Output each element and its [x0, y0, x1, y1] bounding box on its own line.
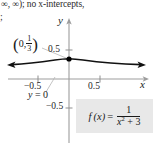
- figure-container: ∞, ∞); no x-intercepts, ; y x 0.5 −0.5 −…: [0, 0, 153, 143]
- formula-denominator-exponent: 2: [122, 115, 125, 122]
- formula-function-name: f: [89, 111, 92, 122]
- x-axis-label: x: [140, 78, 145, 90]
- y-intercept-fraction-denominator: 3: [26, 45, 32, 54]
- y-intercept-point: [66, 56, 71, 61]
- formula-expression: f(x) = 1 x2 + 3: [89, 105, 141, 127]
- formula-function-arg: (x): [94, 111, 106, 122]
- formula-equals: =: [107, 111, 113, 122]
- y-intercept-label: (0,13): [13, 35, 38, 54]
- y-intercept-fraction: 13: [26, 35, 32, 54]
- function-curve: [12, 59, 141, 65]
- y-intercept-x-value: 0,: [19, 38, 27, 49]
- formula-box: f(x) = 1 x2 + 3: [76, 99, 153, 133]
- formula-denominator: x2 + 3: [117, 117, 140, 127]
- asymptote-label-equation: = 0: [35, 89, 48, 100]
- asymptote-label: y = 0: [28, 89, 48, 100]
- formula-denominator-tail: + 3: [127, 116, 140, 127]
- y-intercept-close-paren: ): [32, 35, 38, 54]
- y-axis-label: y: [58, 14, 63, 26]
- asymptote-label-variable: y: [28, 89, 32, 100]
- y-intercept-fraction-numerator: 1: [26, 35, 32, 44]
- y-tick-label-negative: −0.5: [46, 101, 63, 111]
- formula-numerator: 1: [117, 105, 140, 115]
- y-tick-label-positive: 0.5: [48, 44, 60, 54]
- formula-fraction: 1 x2 + 3: [117, 105, 140, 127]
- x-tick-label-positive: 0.5: [88, 81, 100, 91]
